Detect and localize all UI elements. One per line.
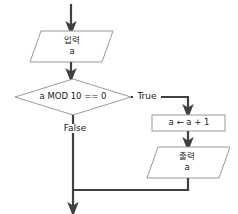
- node-process-shape: [152, 115, 225, 131]
- node-input-shape: [30, 31, 113, 62]
- node-output-shape: [147, 147, 230, 178]
- edge-true-branch: [131, 97, 188, 111]
- edge-output-to-merge: [73, 178, 188, 190]
- node-decision-shape: [15, 79, 131, 115]
- flowchart-canvas: 입력 a a MOD 10 == 0 True False a ← a + 1 …: [0, 0, 238, 214]
- flowchart-svg: [0, 0, 238, 214]
